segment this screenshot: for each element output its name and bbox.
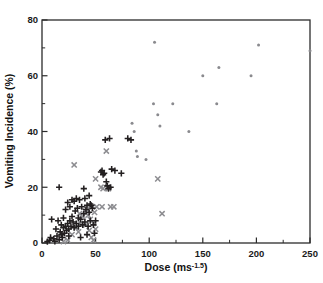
data-point-dot (250, 74, 253, 77)
data-point-dot (217, 66, 220, 69)
data-point-dot (136, 155, 139, 158)
y-axis-ticks: 020406080 (27, 14, 47, 248)
x-tick-label: 0 (39, 248, 44, 259)
x-axis-ticks: 050100150200250 (39, 238, 318, 260)
data-point-dot (257, 44, 260, 47)
y-axis-title: Vomiting Incidence (%) (3, 74, 15, 189)
y-tick-label: 40 (27, 126, 38, 137)
x-tick-label: 150 (195, 248, 211, 259)
data-point-plus (56, 184, 62, 190)
series-plus-markers (44, 135, 134, 244)
data-point-x (155, 176, 160, 181)
data-point-dot (156, 113, 159, 116)
data-point-x (104, 148, 109, 153)
series-dot-markers (131, 41, 312, 161)
data-point-plus (109, 166, 115, 172)
data-point-x (111, 204, 116, 209)
data-point-dot (158, 124, 161, 127)
data-point-plus (112, 167, 118, 173)
y-tick-label: 20 (27, 182, 38, 193)
y-tick-label: 0 (33, 237, 38, 248)
data-point-plus (76, 197, 82, 203)
x-tick-label: 250 (302, 248, 318, 259)
data-point-plus (60, 215, 66, 221)
data-point-dot (135, 150, 138, 153)
x-tick-label: 50 (90, 248, 101, 259)
data-point-dot (215, 102, 218, 105)
data-point-dot (201, 74, 204, 77)
data-point-dot (144, 158, 147, 161)
data-point-plus (55, 218, 61, 224)
data-point-x (93, 176, 98, 181)
data-point-dot (187, 130, 190, 133)
data-point-plus (77, 234, 83, 240)
data-point-x (101, 186, 106, 191)
data-point-plus (128, 137, 134, 143)
y-tick-label: 60 (27, 70, 38, 81)
data-point-plus (118, 170, 124, 176)
data-point-plus (106, 135, 112, 141)
data-point-x (159, 211, 164, 216)
data-point-plus (84, 232, 90, 238)
data-point-plus (103, 179, 109, 185)
data-point-plus (102, 137, 108, 143)
data-point-dot (152, 102, 155, 105)
data-point-plus (49, 216, 55, 222)
data-point-dot (133, 130, 136, 133)
data-point-dot (131, 122, 134, 125)
data-point-dot (153, 41, 156, 44)
chart-figure: 050100150200250 020406080 Dose (ms-1.5) … (0, 0, 323, 283)
scatter-plot-svg: 050100150200250 020406080 Dose (ms-1.5) … (0, 0, 323, 283)
data-point-plus (81, 186, 87, 192)
x-tick-label: 200 (248, 248, 264, 259)
y-tick-label: 80 (27, 14, 38, 25)
data-point-x (72, 162, 77, 167)
data-point-x (99, 204, 104, 209)
data-point-plus (125, 135, 131, 141)
x-axis-title: Dose (ms-1.5) (145, 261, 208, 273)
x-tick-label: 100 (141, 248, 157, 259)
data-point-dot (171, 102, 174, 105)
data-point-dot (309, 49, 312, 52)
